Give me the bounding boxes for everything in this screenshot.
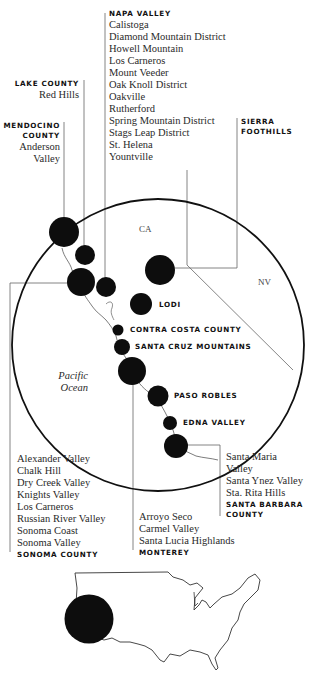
region-edna-valley: EDNA VALLEY [183, 418, 246, 428]
region-dots [49, 217, 188, 458]
region-sonoma-county: Alexander Valley Chalk Hill Dry Creek Va… [17, 453, 105, 560]
region-lake-county: LAKE COUNTY Red Hills [0, 79, 79, 101]
dot-monterey [118, 357, 146, 385]
dot-lake-county [75, 245, 95, 265]
california-wine-regions-diagram: CA NV Pacific Ocean NAPA VALLEY Calistog… [0, 0, 309, 679]
region-santa-cruz-mountains: SANTA CRUZ MOUNTAINS [135, 342, 251, 352]
dot-napa [96, 277, 116, 297]
dot-sierra-foothills [145, 255, 175, 285]
sub-avas: Calistoga Diamond Mountain District Howe… [109, 19, 226, 163]
state-label-nv: NV [258, 276, 271, 288]
dot-mendocino [49, 217, 79, 247]
dot-santa-barbara [164, 434, 188, 458]
dot-edna-valley [163, 416, 177, 430]
region-paso-robles: PASO ROBLES [174, 391, 237, 401]
dot-lodi [130, 293, 152, 315]
dot-paso-robles [148, 386, 169, 407]
california-locator-dot [65, 595, 114, 644]
region-monterey: Arroyo Seco Carmel Valley Santa Lucia Hi… [139, 511, 235, 558]
region-napa-valley: NAPA VALLEY Calistoga Diamond Mountain D… [109, 9, 226, 163]
dot-contra-costa [113, 325, 124, 336]
region-santa-barbara-county: Santa Maria Valley Santa Ynez Valley Sta… [226, 451, 303, 520]
dot-santa-cruz [114, 339, 130, 355]
region-mendocino-county: MENDOCINO COUNTY Anderson Valley [0, 121, 60, 165]
region-contra-costa-county: CONTRA COSTA COUNTY [130, 325, 242, 335]
region-sierra-foothills: SIERRA FOOTHILLS [241, 117, 292, 137]
region-title: NAPA VALLEY [109, 9, 226, 19]
region-lodi: LODI [159, 300, 181, 310]
dot-sonoma [67, 268, 95, 296]
state-label-ca: CA [139, 223, 152, 235]
ocean-label: Pacific Ocean [52, 370, 88, 394]
